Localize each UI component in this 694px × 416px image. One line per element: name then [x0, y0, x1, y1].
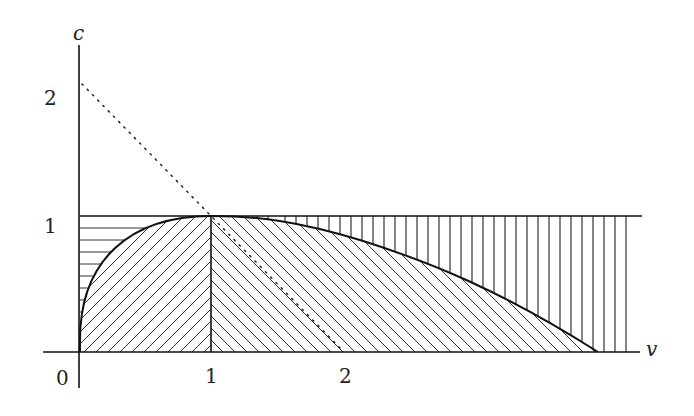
y-axis-label: c	[73, 21, 84, 45]
x-tick-label-1: 1	[205, 364, 218, 388]
y-tick-label-1: 1	[44, 214, 57, 238]
diagram-canvas: c v 0 2 1 1 2	[0, 0, 694, 416]
y-tick-label-2: 2	[44, 86, 57, 110]
curve	[80, 216, 598, 352]
x-tick-label-2: 2	[339, 364, 352, 388]
x-axis-label: v	[646, 337, 658, 361]
origin-label: 0	[56, 366, 69, 390]
